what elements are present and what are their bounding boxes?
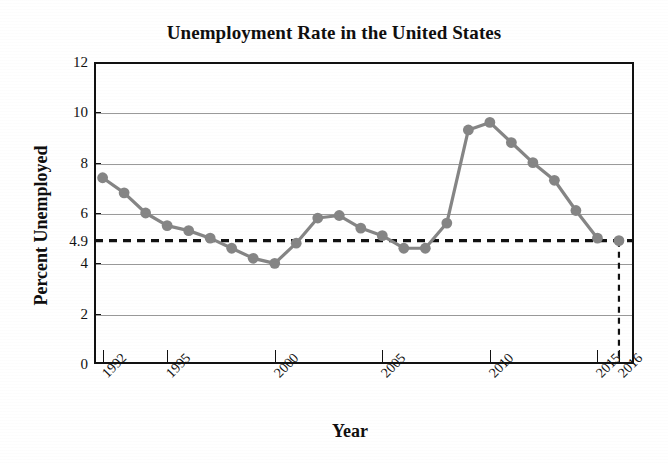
gridline — [96, 164, 632, 165]
y-axis-tick-label: 4 — [28, 255, 88, 272]
y-axis-tick-label: 12 — [28, 54, 88, 71]
x-axis-tick-mark — [275, 350, 276, 363]
y-axis-tick-mark — [94, 263, 101, 264]
x-axis-tick-mark — [382, 350, 383, 363]
x-axis-tick-mark — [597, 350, 598, 363]
x-axis-tick-mark — [167, 350, 168, 363]
y-axis-tick-mark — [94, 112, 101, 113]
y-axis-tick-mark — [94, 314, 101, 315]
unemployment-rate-chart: Unemployment Rate in the United States P… — [0, 0, 668, 463]
gridline — [96, 315, 632, 316]
x-axis-tick-mark — [490, 350, 491, 363]
gridline — [96, 214, 632, 215]
x-axis-tick-mark — [619, 350, 620, 363]
y-axis-tick-label: 6 — [28, 205, 88, 222]
x-axis-title: Year — [250, 421, 450, 442]
y-axis-tick-mark — [94, 213, 101, 214]
chart-title: Unemployment Rate in the United States — [0, 22, 668, 44]
gridline — [96, 113, 632, 114]
y-axis-tick-labels: 0246810124.9 — [20, 0, 88, 463]
y-axis-tick-mark — [94, 163, 101, 164]
plot-area — [94, 62, 634, 364]
y-axis-tick-label: 10 — [28, 104, 88, 121]
y-axis-tick-label: 2 — [28, 305, 88, 322]
x-axis-tick-mark — [103, 350, 104, 363]
y-axis-tick-label: 8 — [28, 154, 88, 171]
y-axis-tick-label: 0 — [28, 356, 88, 373]
gridline — [96, 264, 632, 265]
reference-value-label: 4.9 — [28, 232, 88, 249]
